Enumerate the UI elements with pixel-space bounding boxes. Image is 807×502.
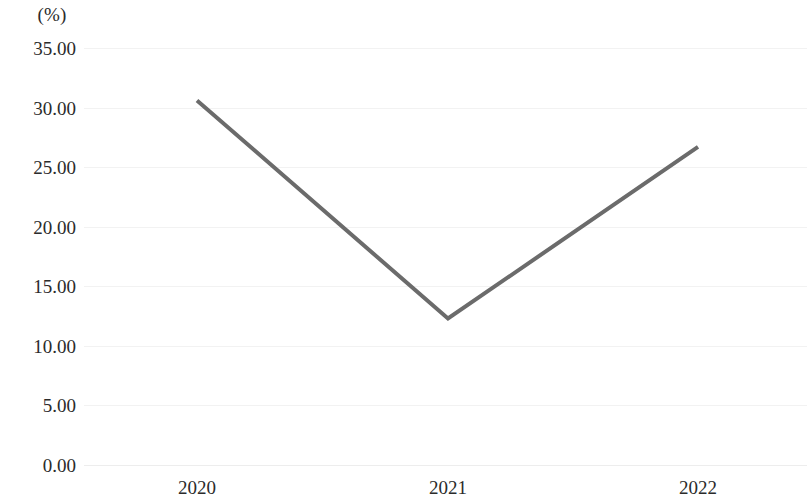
- y-axis-tick-label: 30.00: [0, 99, 76, 118]
- x-axis-tick-label: 2020: [137, 478, 257, 497]
- y-axis-tick-label: 20.00: [0, 218, 76, 237]
- series-layer: [0, 0, 807, 502]
- x-axis-tick-label: 2021: [388, 478, 508, 497]
- plot-area: [0, 0, 807, 502]
- y-axis-tick-label: 15.00: [0, 277, 76, 296]
- y-axis-tick-label: 0.00: [0, 456, 76, 475]
- x-axis-tick-label: 2022: [638, 478, 758, 497]
- y-axis-tick-label: 25.00: [0, 158, 76, 177]
- line-chart: (%) 35.0030.0025.0020.0015.0010.005.000.…: [0, 0, 807, 502]
- y-axis-tick-label: 5.00: [0, 396, 76, 415]
- y-axis-tick-label: 10.00: [0, 337, 76, 356]
- y-axis-tick-label: 35.00: [0, 39, 76, 58]
- data-line-series-1: [197, 100, 698, 318]
